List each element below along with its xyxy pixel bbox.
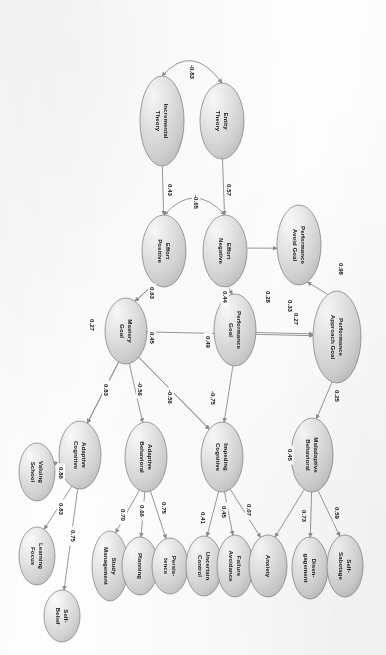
node-performance_goal[interactable]: PerformanceGoal	[214, 294, 256, 366]
node-incremental_theory[interactable]: IncrementalTheory	[140, 76, 184, 166]
node-label-line1: Planning	[137, 553, 144, 579]
edge-label-value: -0.56	[167, 390, 174, 405]
node-failure_avoidance[interactable]: FailureAvoidance	[217, 535, 253, 597]
node-label-line1: Entity	[223, 112, 230, 130]
node-self_sabotage[interactable]: Self-Sabotage	[327, 535, 363, 597]
node-label-line2: Positive	[157, 239, 164, 263]
edge-label-value: 0.73	[301, 510, 308, 522]
node-persistence[interactable]: Persis-tence	[152, 538, 188, 594]
edge-label-value: 0.75	[161, 502, 168, 514]
edge-label: 0.98	[337, 260, 345, 279]
node-label-line2: Focus	[30, 547, 37, 566]
node-label-line1: Mastery	[127, 319, 134, 343]
edge-label-value: 0.33	[287, 300, 294, 312]
node-adaptive_behavioral[interactable]: AdaptiveBehavioral	[125, 422, 167, 492]
edge-label-value: 0.25	[334, 390, 341, 402]
node-label-line1: Valuing	[38, 461, 45, 483]
edge-label: -0.83	[188, 63, 196, 82]
edge-label: 0.33	[286, 297, 294, 316]
edge-label: 0.45	[148, 329, 156, 348]
node-label-line2: Goal	[119, 324, 126, 338]
edge-label: 0.73	[300, 507, 308, 526]
node-label-line2: Goal	[228, 323, 235, 337]
edge-label-value: 0.83	[103, 384, 110, 396]
edge-label-value: 0.98	[338, 263, 345, 275]
edge-label-value: 0.63	[149, 287, 156, 299]
node-performance_approach_goal[interactable]: PerformanceApproach Goal	[313, 291, 361, 383]
edge-label-value: 0.45	[221, 506, 228, 518]
node-label-line1: Disen-	[311, 559, 318, 578]
edge-label-value: 0.70	[120, 509, 127, 521]
node-label-line1: Persis-	[171, 556, 178, 577]
edge-label: 0.83	[57, 500, 65, 519]
node-entity_theory[interactable]: EntityTheory	[200, 83, 244, 159]
node-disengagement[interactable]: Disen-gagement	[292, 537, 328, 599]
node-label-line2: Behavioral	[305, 439, 312, 471]
node-label-group: PerformanceApproach Goal	[330, 315, 345, 360]
edge	[223, 159, 225, 215]
node-label-line1: Effort	[226, 243, 233, 260]
node-label-line2: Belief	[55, 608, 62, 626]
node-impeding_cognitive[interactable]: ImpedingCognitive	[201, 422, 243, 492]
edge-label: 0.66	[138, 502, 146, 521]
edge-label: 0.43	[166, 181, 174, 200]
node-label-line1: Performance	[338, 318, 345, 356]
edge-label-value: -0.83	[189, 65, 196, 80]
edge-label: 0.28	[264, 288, 272, 307]
sem-path-diagram: IncrementalTheoryEntityTheoryEffortPosit…	[0, 0, 386, 655]
node-label-line1: Performance	[236, 311, 243, 349]
edge-label-value: 0.44	[222, 291, 229, 303]
edge-label-value: 0.66	[139, 505, 146, 517]
node-label-line1: Failure	[236, 556, 243, 577]
edge	[224, 366, 233, 422]
node-anxiety[interactable]: Anxiety	[249, 535, 287, 597]
node-valuing_school[interactable]: ValuingSchool	[19, 443, 55, 501]
edge-label-value: 0.41	[200, 512, 207, 524]
edge-label: 0.07	[245, 501, 253, 520]
node-label-line1: Uncertain	[205, 552, 212, 581]
node-label-line1: Self-	[346, 559, 353, 572]
edge-label-value: 0.75	[70, 530, 77, 542]
node-label-line2: School	[30, 462, 37, 483]
edge-label: 0.75	[160, 499, 168, 518]
node-effort_positive[interactable]: EffortPositive	[142, 215, 186, 287]
edge-label: 0.41	[199, 509, 207, 528]
edge-label: -0.56	[136, 380, 144, 399]
node-label-group: EntityTheory	[215, 111, 230, 132]
edge-label: 0.59	[333, 504, 341, 523]
node-label-line2: Approach Goal	[330, 315, 337, 360]
node-label-line1: Learning	[38, 543, 45, 569]
edge-label-value: -0.56	[137, 382, 144, 397]
node-label-group: Persis-tence	[163, 556, 178, 577]
node-label-line2: tence	[163, 558, 170, 575]
node-self_belief[interactable]: Self-Belief	[44, 590, 80, 642]
node-label-group: UncertainControl	[197, 552, 212, 581]
node-label-group: MaladaptiveBehavioral	[305, 437, 320, 473]
edge-label: -0.65	[192, 193, 200, 212]
edge-label-value: 0.49	[205, 336, 212, 348]
edge	[256, 333, 313, 334]
node-label-line1: Anxiety	[265, 555, 272, 578]
node-mastery_goal[interactable]: MasteryGoal	[105, 298, 147, 364]
node-label-line1: Performance	[300, 226, 307, 264]
edge-label: 0.75	[69, 527, 77, 546]
node-label-line2: Theory	[155, 111, 162, 132]
node-learning_focus[interactable]: LearningFocus	[19, 527, 55, 585]
node-label-line1: Impeding	[223, 443, 230, 471]
edge-label: 0.44	[221, 288, 229, 307]
node-performance_avoid_goal[interactable]: PerformanceAvoid Goal	[277, 205, 321, 285]
node-effort_negative[interactable]: EffortNegative	[203, 215, 247, 287]
edge-label-value: 0.45	[149, 332, 156, 344]
node-maladaptive_behavioral[interactable]: MaladaptiveBehavioral	[291, 418, 333, 492]
node-label-line2: Management	[103, 547, 110, 585]
node-label-line1: Adaptive	[147, 444, 154, 471]
edge	[207, 492, 219, 537]
edge-label-value: 0.27	[293, 313, 300, 325]
node-label-line2: Cognitive	[215, 443, 222, 472]
edge-label: 0.63	[148, 284, 156, 303]
edge-label: 0.57	[225, 181, 233, 200]
edge	[275, 489, 304, 537]
node-label-line1: Effort	[165, 243, 172, 260]
diagram-canvas: IncrementalTheoryEntityTheoryEffortPosit…	[0, 0, 386, 655]
edge-label-value: 0.28	[265, 291, 272, 303]
